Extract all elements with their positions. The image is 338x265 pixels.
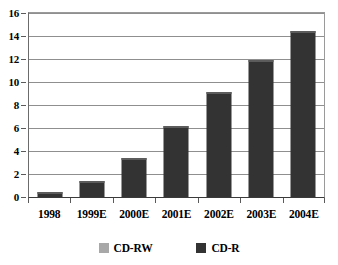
legend-label: CD-R	[211, 242, 239, 254]
legend-swatch-icon	[196, 243, 206, 253]
y-tick-label: 6	[14, 123, 19, 133]
x-tick-mark	[113, 198, 114, 203]
x-tick-label: 2001E	[162, 208, 192, 220]
bar-cd-r[interactable]	[38, 192, 63, 197]
y-tick-mark	[21, 174, 26, 175]
legend-swatch-icon	[99, 243, 109, 253]
y-tick-label: 16	[8, 8, 19, 18]
x-tick-mark	[155, 198, 156, 203]
legend-label: CD-RW	[114, 242, 153, 254]
x-tick-label: 1998	[38, 208, 60, 220]
x-tick-label: 2000E	[119, 208, 149, 220]
y-tick-label: 8	[14, 100, 19, 110]
x-axis: 19981999E2000E2001E2002E2003E2004E	[28, 208, 325, 226]
bar-cd-r[interactable]	[206, 92, 231, 197]
y-tick-mark	[21, 82, 26, 83]
x-tick-label: 2002E	[204, 208, 234, 220]
x-tick-mark	[198, 198, 199, 203]
y-tick-mark	[21, 59, 26, 60]
bars-layer	[29, 13, 324, 197]
y-tick-mark	[21, 13, 26, 14]
bar-cd-r[interactable]	[248, 60, 273, 197]
y-tick-mark	[21, 151, 26, 152]
chart-legend: CD-RWCD-R	[0, 238, 338, 258]
y-tick-label: 14	[8, 31, 19, 41]
x-tick-label: 2003E	[247, 208, 277, 220]
bar-group[interactable]	[29, 13, 71, 197]
bar-cd-r[interactable]	[80, 181, 105, 197]
x-tick-label: 2004E	[289, 208, 319, 220]
legend-entry[interactable]: CD-RW	[99, 242, 153, 254]
x-tick-mark	[28, 198, 29, 203]
bar-chart-figure: 0246810121416 19981999E2000E2001E2002E20…	[0, 0, 338, 265]
x-tick-mark	[70, 198, 71, 203]
y-tick-label: 4	[14, 146, 19, 156]
x-tick-label: 1999E	[77, 208, 107, 220]
bar-group[interactable]	[155, 13, 197, 197]
y-tick-label: 0	[14, 192, 19, 202]
y-tick-mark	[21, 197, 26, 198]
y-axis: 0246810121416	[0, 0, 26, 200]
x-axis-ticks	[28, 198, 325, 204]
y-tick-mark	[21, 128, 26, 129]
y-tick-mark	[21, 105, 26, 106]
x-tick-mark	[283, 198, 284, 203]
x-tick-mark	[324, 198, 325, 203]
bar-cd-r[interactable]	[122, 158, 147, 197]
bar-cd-r[interactable]	[290, 31, 315, 197]
bar-group[interactable]	[240, 13, 282, 197]
y-tick-mark	[21, 36, 26, 37]
x-tick-mark	[240, 198, 241, 203]
y-tick-label: 2	[14, 169, 19, 179]
y-tick-label: 12	[8, 54, 19, 64]
legend-entry[interactable]: CD-R	[196, 242, 239, 254]
bar-group[interactable]	[282, 13, 324, 197]
bar-group[interactable]	[113, 13, 155, 197]
bar-group[interactable]	[71, 13, 113, 197]
bar-cd-r[interactable]	[164, 126, 189, 197]
y-tick-label: 10	[8, 77, 19, 87]
bar-group[interactable]	[198, 13, 240, 197]
